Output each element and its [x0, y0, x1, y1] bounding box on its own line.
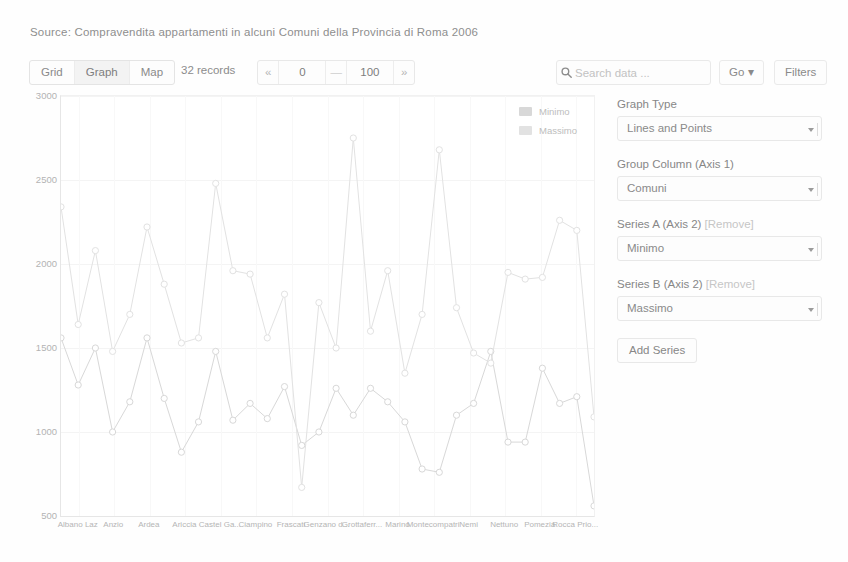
data-point[interactable]	[488, 360, 494, 366]
y-axis-tick: 1000	[29, 427, 57, 436]
data-point[interactable]	[299, 442, 305, 448]
tab-graph[interactable]: Graph	[75, 61, 130, 84]
toolbar: Grid Graph Map 32 records « 0 — 100 » Go…	[29, 60, 819, 85]
data-explorer-page: Source: Compravendita appartamenti in al…	[0, 0, 848, 562]
data-point[interactable]	[75, 382, 81, 388]
data-point[interactable]	[161, 395, 167, 401]
data-point[interactable]	[419, 311, 425, 317]
pagination-end-input[interactable]: 100	[347, 61, 394, 84]
add-series-button[interactable]: Add Series	[617, 338, 697, 363]
data-point[interactable]	[453, 305, 459, 311]
x-axis-tick: Albano Laz	[58, 520, 98, 530]
data-point[interactable]	[195, 335, 201, 341]
data-point[interactable]	[591, 414, 594, 420]
data-point[interactable]	[195, 419, 201, 425]
data-point[interactable]	[402, 370, 408, 376]
data-point[interactable]	[230, 417, 236, 423]
pagination-range-dash: —	[326, 61, 347, 84]
chevron-down-icon[interactable]	[806, 305, 815, 314]
data-point[interactable]	[557, 400, 563, 406]
data-point[interactable]	[471, 350, 477, 356]
chart-legend: Minimo Massimo	[519, 104, 609, 142]
go-button[interactable]: Go ▾	[719, 60, 764, 85]
pagination-start-input[interactable]: 0	[279, 61, 326, 84]
data-point[interactable]	[539, 365, 545, 371]
data-point[interactable]	[522, 439, 528, 445]
x-axis-tick: Nemi	[459, 520, 478, 530]
series-a-label-text: Series A (Axis 2)	[617, 218, 705, 230]
data-point[interactable]	[402, 419, 408, 425]
data-point[interactable]	[316, 429, 322, 435]
series-b-label: Series B (Axis 2) [Remove]	[617, 278, 822, 290]
data-point[interactable]	[522, 276, 528, 282]
data-point[interactable]	[539, 274, 545, 280]
group-column-select[interactable]: Comuni	[617, 176, 822, 201]
y-axis-tick: 500	[29, 511, 57, 520]
data-point[interactable]	[316, 300, 322, 306]
data-point[interactable]	[367, 328, 373, 334]
data-point[interactable]	[367, 385, 373, 391]
x-axis: Albano LazAnzioArdeaAricciaCastel Ga...C…	[60, 520, 595, 534]
data-point[interactable]	[61, 335, 64, 341]
data-point[interactable]	[591, 503, 594, 509]
data-point[interactable]	[230, 268, 236, 274]
data-point[interactable]	[178, 340, 184, 346]
data-point[interactable]	[436, 469, 442, 475]
series-b-remove-link[interactable]: [Remove]	[706, 278, 755, 290]
data-point[interactable]	[436, 147, 442, 153]
data-point[interactable]	[333, 345, 339, 351]
data-point[interactable]	[453, 412, 459, 418]
data-point[interactable]	[178, 449, 184, 455]
data-point[interactable]	[213, 180, 219, 186]
data-point[interactable]	[574, 394, 580, 400]
data-point[interactable]	[505, 269, 511, 275]
data-point[interactable]	[264, 416, 270, 422]
series-a-select[interactable]: Minimo	[617, 236, 822, 261]
data-point[interactable]	[385, 268, 391, 274]
data-point[interactable]	[127, 399, 133, 405]
data-point[interactable]	[299, 484, 305, 490]
data-point[interactable]	[247, 271, 253, 277]
data-point[interactable]	[281, 291, 287, 297]
data-point[interactable]	[574, 227, 580, 233]
search-input[interactable]	[575, 67, 700, 79]
chevron-down-icon[interactable]	[806, 245, 815, 254]
data-point[interactable]	[281, 384, 287, 390]
series-a-remove-link[interactable]: [Remove]	[705, 218, 754, 230]
data-point[interactable]	[557, 217, 563, 223]
x-axis-tick: Montecompatri	[407, 520, 460, 530]
filters-button[interactable]: Filters	[774, 60, 827, 85]
graph-type-select[interactable]: Lines and Points	[617, 116, 822, 141]
data-point[interactable]	[61, 204, 64, 210]
data-point[interactable]	[144, 335, 150, 341]
chevron-down-icon[interactable]	[806, 125, 815, 134]
data-point[interactable]	[350, 412, 356, 418]
pagination-next-button[interactable]: »	[394, 61, 414, 84]
view-tab-group: Grid Graph Map	[29, 60, 175, 85]
data-point[interactable]	[385, 399, 391, 405]
y-axis-tick: 2000	[29, 259, 57, 268]
data-point[interactable]	[127, 311, 133, 317]
chevron-down-icon[interactable]	[806, 185, 815, 194]
data-point[interactable]	[505, 439, 511, 445]
data-point[interactable]	[333, 385, 339, 391]
pagination-prev-button[interactable]: «	[258, 61, 279, 84]
series-b-select[interactable]: Massimo	[617, 296, 822, 321]
data-point[interactable]	[161, 281, 167, 287]
x-axis-tick: Ariccia	[172, 520, 196, 530]
data-point[interactable]	[92, 345, 98, 351]
data-point[interactable]	[247, 400, 253, 406]
data-point[interactable]	[264, 335, 270, 341]
data-point[interactable]	[110, 429, 116, 435]
data-point[interactable]	[75, 321, 81, 327]
search-box[interactable]	[556, 60, 711, 85]
tab-map[interactable]: Map	[130, 61, 174, 84]
data-point[interactable]	[350, 135, 356, 141]
data-point[interactable]	[213, 348, 219, 354]
data-point[interactable]	[471, 400, 477, 406]
data-point[interactable]	[144, 224, 150, 230]
tab-grid[interactable]: Grid	[30, 61, 75, 84]
data-point[interactable]	[110, 348, 116, 354]
data-point[interactable]	[419, 466, 425, 472]
data-point[interactable]	[92, 248, 98, 254]
